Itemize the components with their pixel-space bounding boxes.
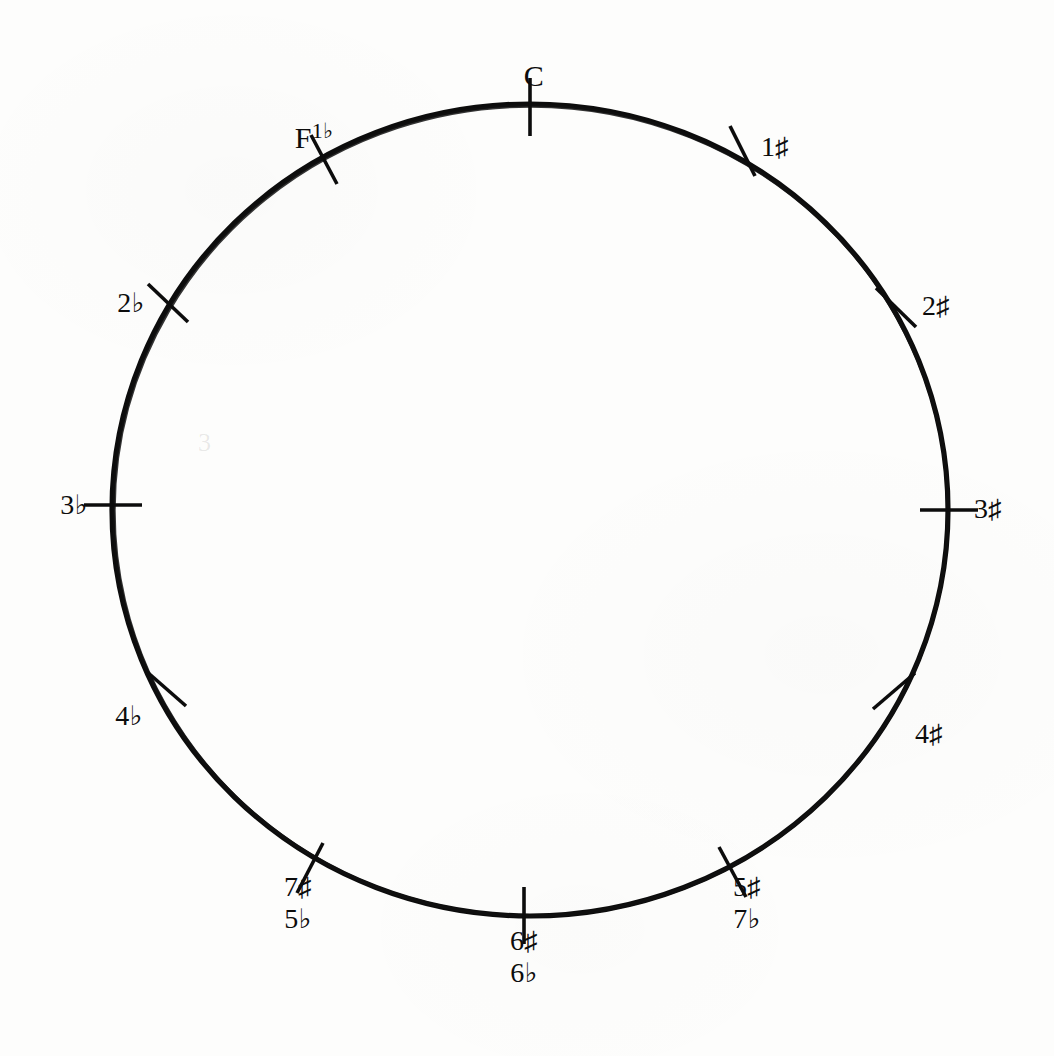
label-7-flat-number: 7 — [733, 903, 747, 934]
tick-mark-1-sharp — [730, 126, 755, 176]
label-4-sharp-text: 4♯ — [915, 719, 943, 749]
label-f-superscript: 1♭ — [312, 118, 334, 143]
label-3-sharp-text: 3♯ — [974, 494, 1002, 524]
label-2-sharp: 2♯ — [922, 291, 950, 321]
label-5-flat-line: 5♭ — [284, 903, 312, 935]
label-6-sharp-number: 6 — [510, 925, 524, 956]
label-1-sharp-text: 1♯ — [761, 132, 789, 162]
label-c-text: C — [524, 60, 544, 91]
figure-canvas: 3 C F1♭ 1♯ 2♯ 3♯ 4♯ 5♯ 7♭ 6♯ 6♭ 7♯ 5♭ 4♭… — [0, 0, 1054, 1056]
label-1-sharp-number: 1 — [761, 131, 775, 162]
label-f-1-flat-text: F1♭ — [295, 122, 334, 153]
tick-mark-4-sharp — [873, 673, 915, 709]
label-1-sharp: 1♯ — [761, 132, 789, 162]
flat-icon: ♭ — [323, 119, 333, 143]
label-7-sharp-5-flat: 7♯ 5♭ — [284, 871, 312, 936]
label-f-1-flat: F1♭ — [295, 122, 334, 153]
label-4-flat-text: 4♭ — [115, 701, 142, 731]
sharp-icon: ♯ — [929, 719, 943, 749]
label-3-flat-number: 3 — [60, 489, 74, 520]
label-2-sharp-number: 2 — [922, 290, 936, 321]
label-5-sharp-7-flat: 5♯ 7♭ — [733, 871, 761, 936]
sharp-icon: ♯ — [936, 291, 950, 321]
label-7-flat-line: 7♭ — [733, 903, 761, 935]
label-2-flat-text: 2♭ — [117, 288, 144, 318]
label-2-flat: 2♭ — [117, 288, 144, 318]
label-7-sharp-number: 7 — [284, 871, 298, 902]
sharp-icon: ♯ — [524, 926, 538, 956]
flat-icon: ♭ — [130, 701, 143, 731]
tick-mark-2-sharp — [876, 288, 916, 327]
label-f-root: F — [295, 121, 312, 154]
label-4-flat: 4♭ — [115, 701, 142, 731]
label-3-flat-text: 3♭ — [60, 490, 87, 520]
label-5-sharp-line: 5♯ — [733, 871, 761, 903]
flat-icon: ♭ — [75, 490, 88, 520]
label-3-flat: 3♭ — [60, 490, 87, 520]
sharp-icon: ♯ — [747, 872, 761, 902]
circle-of-keys-diagram — [0, 0, 1054, 1056]
flat-icon: ♭ — [525, 958, 538, 988]
main-circle — [112, 104, 948, 916]
flat-icon: ♭ — [132, 288, 145, 318]
label-6-sharp-6-flat: 6♯ 6♭ — [510, 925, 538, 990]
label-6-sharp-line: 6♯ — [510, 925, 538, 957]
sharp-icon: ♯ — [775, 132, 789, 162]
label-c: C — [524, 60, 544, 91]
flat-icon: ♭ — [748, 904, 761, 934]
label-4-sharp: 4♯ — [915, 719, 943, 749]
label-2-flat-number: 2 — [117, 287, 131, 318]
label-4-sharp-number: 4 — [915, 718, 929, 749]
label-5-flat-number: 5 — [284, 903, 298, 934]
sharp-icon: ♯ — [988, 494, 1002, 524]
tick-marks-group — [84, 78, 978, 944]
label-6-flat-line: 6♭ — [510, 957, 538, 989]
label-2-sharp-text: 2♯ — [922, 291, 950, 321]
label-6-flat-number: 6 — [510, 957, 524, 988]
circle-outline-group — [112, 104, 948, 916]
label-3-sharp: 3♯ — [974, 494, 1002, 524]
label-7-sharp-line: 7♯ — [284, 871, 312, 903]
sharp-icon: ♯ — [298, 872, 312, 902]
label-4-flat-number: 4 — [115, 700, 129, 731]
label-5-sharp-number: 5 — [733, 871, 747, 902]
main-circle-ink-overlay — [114, 106, 948, 916]
flat-icon: ♭ — [299, 904, 312, 934]
label-3-sharp-number: 3 — [974, 493, 988, 524]
label-f-sup-number: 1 — [312, 118, 323, 143]
